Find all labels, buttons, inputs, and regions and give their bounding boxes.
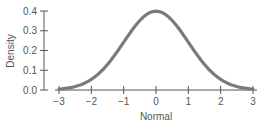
y-axis-label: Density: [5, 34, 16, 67]
x-tick-label: −2: [86, 96, 98, 107]
x-tick-label: 3: [250, 96, 256, 107]
y-tick-label: 0.4: [23, 6, 37, 17]
y-tick-label: 0.0: [23, 85, 37, 96]
density-chart: 0.00.10.20.30.4 −3−2−10123 Density Norma…: [0, 0, 271, 131]
x-tick-label: 1: [186, 96, 192, 107]
x-tick-label: 2: [218, 96, 224, 107]
y-tick-label: 0.3: [23, 25, 37, 36]
y-tick-label: 0.2: [23, 45, 37, 56]
x-tick-label: −1: [118, 96, 130, 107]
x-tick-label: −3: [53, 96, 65, 107]
x-axis-label: Normal: [140, 111, 172, 122]
x-axis: −3−2−10123: [53, 86, 257, 107]
density-curve: [59, 11, 253, 89]
y-axis: 0.00.10.20.30.4: [23, 6, 48, 96]
x-tick-label: 0: [153, 96, 159, 107]
y-tick-label: 0.1: [23, 65, 37, 76]
